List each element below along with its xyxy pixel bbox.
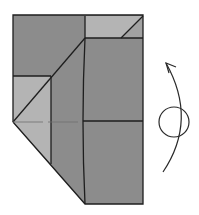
origami-diagram <box>0 0 199 215</box>
diagram-canvas <box>0 0 199 215</box>
rotation-circle-icon <box>159 107 189 137</box>
turn-over-arc <box>163 63 181 172</box>
turn-over-arrow-icon <box>159 63 189 172</box>
